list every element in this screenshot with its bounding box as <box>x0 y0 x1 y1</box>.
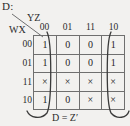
row-header-01: 01 <box>14 54 32 73</box>
column-header-10: 10 <box>102 21 125 34</box>
column-header-11: 11 <box>79 21 102 34</box>
kmap-cell-r2-c1: × <box>57 73 80 92</box>
kmap-cell-r3-c3: × <box>102 92 125 111</box>
kmap-cell-r3-c2: × <box>80 92 103 111</box>
row-header-column: 00 01 11 10 <box>14 35 32 110</box>
kmap-row-01: 1 0 0 1 <box>34 55 125 74</box>
kmap-cell-r0-c1: 0 <box>57 36 80 55</box>
column-header-01: 01 <box>56 21 79 34</box>
boolean-expression-caption: D = Z′ <box>0 111 130 124</box>
kmap-cell-r0-c3: 1 <box>102 36 125 55</box>
kmap-row-10: 1 0 × × <box>34 92 125 111</box>
column-header-row: 00 01 11 10 <box>33 21 125 34</box>
output-variable-label: D: <box>2 0 13 12</box>
kmap-row-11: × × × × <box>34 73 125 92</box>
row-header-00: 00 <box>14 35 32 54</box>
kmap-cell-r2-c2: × <box>80 73 103 92</box>
kmap-cell-r1-c2: 0 <box>80 55 103 74</box>
row-header-11: 11 <box>14 73 32 92</box>
row-header-10: 10 <box>14 91 32 110</box>
karnaugh-map-figure: D: YZ WX 00 01 11 10 00 01 11 10 1 0 0 1… <box>0 0 130 126</box>
kmap-cell-r1-c1: 0 <box>57 55 80 74</box>
kmap-cell-r1-c3: 1 <box>102 55 125 74</box>
kmap-cell-r0-c2: 0 <box>80 36 103 55</box>
kmap-cell-r3-c0: 1 <box>34 92 57 111</box>
kmap-row-00: 1 0 0 1 <box>34 36 125 55</box>
column-header-00: 00 <box>33 21 56 34</box>
row-variable-label: WX <box>9 24 26 35</box>
kmap-cell-r1-c0: 1 <box>34 55 57 74</box>
kmap-cell-r2-c0: × <box>34 73 57 92</box>
kmap-cell-r3-c1: 0 <box>57 92 80 111</box>
kmap-cell-r0-c0: 1 <box>34 36 57 55</box>
karnaugh-map-grid: 1 0 0 1 1 0 0 1 × × × × 1 0 × × <box>33 35 125 110</box>
kmap-cell-r2-c3: × <box>102 73 125 92</box>
